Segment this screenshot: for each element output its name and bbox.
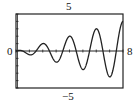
y-max-label: 5 [66, 1, 72, 12]
data-curve [16, 21, 123, 77]
y-min-label: −5 [62, 91, 74, 102]
x-min-label: 0 [7, 46, 13, 57]
x-max-label: 8 [127, 46, 133, 57]
